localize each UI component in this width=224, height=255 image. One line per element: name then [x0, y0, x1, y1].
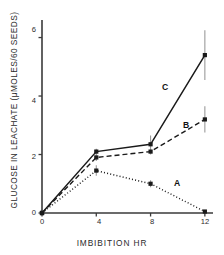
error-bars — [96, 30, 205, 187]
chart-canvas — [0, 0, 224, 255]
series-lines — [42, 55, 205, 213]
series-markers — [40, 53, 207, 215]
chart-figure: GLUCOSE IN LEACHATE (μMOLES/60 SEEDS) IM… — [0, 0, 224, 255]
